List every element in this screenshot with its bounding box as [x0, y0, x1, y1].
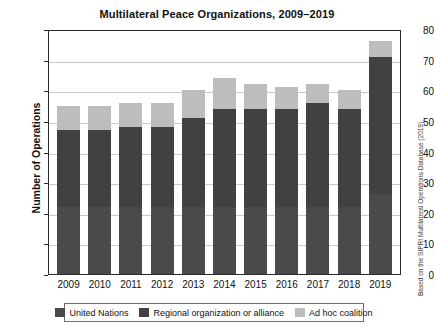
chart-title: Multilateral Peace Organizations, 2009–2… — [0, 8, 434, 20]
bar-segment[interactable] — [306, 103, 329, 207]
legend-label: United Nations — [69, 308, 128, 318]
bar-segment[interactable] — [244, 109, 267, 207]
y-axis-title: Number of Operations — [30, 43, 42, 273]
chart-container: Multilateral Peace Organizations, 2009–2… — [0, 0, 434, 334]
bar-segment[interactable] — [213, 109, 236, 207]
source-note: Based on the SIPRI Multilateral Operatio… — [417, 81, 424, 296]
bar-segment[interactable] — [57, 130, 80, 207]
bar-segment[interactable] — [182, 207, 205, 274]
bar-segment[interactable] — [151, 127, 174, 207]
y-axis-tick-mark — [44, 275, 48, 276]
bar-segment[interactable] — [338, 90, 361, 108]
bar-segment[interactable] — [306, 207, 329, 274]
bar-segment[interactable] — [369, 194, 392, 274]
bar-segment[interactable] — [88, 207, 111, 274]
legend-item[interactable]: Ad hoc coalition — [295, 308, 373, 318]
bar-column[interactable] — [57, 31, 80, 274]
plot-area — [48, 30, 401, 275]
bar-segment[interactable] — [88, 106, 111, 131]
bar-segment[interactable] — [213, 207, 236, 274]
legend-swatch-icon — [55, 308, 65, 317]
bar-segment[interactable] — [119, 103, 142, 128]
legend-label: Regional organization or alliance — [153, 308, 284, 318]
bar-column[interactable] — [244, 31, 267, 274]
bar-segment[interactable] — [338, 109, 361, 207]
legend-item[interactable]: Regional organization or alliance — [139, 308, 284, 318]
bar-group — [49, 31, 400, 274]
bar-segment[interactable] — [244, 84, 267, 109]
bar-column[interactable] — [88, 31, 111, 274]
legend-swatch-icon — [139, 308, 149, 317]
bar-segment[interactable] — [151, 207, 174, 274]
bar-segment[interactable] — [57, 207, 80, 274]
bar-segment[interactable] — [338, 207, 361, 274]
legend-label: Ad hoc coalition — [309, 308, 373, 318]
bar-segment[interactable] — [369, 57, 392, 195]
bar-segment[interactable] — [275, 109, 298, 207]
bar-segment[interactable] — [275, 207, 298, 274]
bar-column[interactable] — [369, 31, 392, 274]
bar-column[interactable] — [151, 31, 174, 274]
bar-segment[interactable] — [306, 84, 329, 102]
bar-segment[interactable] — [119, 127, 142, 207]
bar-segment[interactable] — [213, 78, 236, 109]
bar-segment[interactable] — [57, 106, 80, 131]
bar-segment[interactable] — [88, 130, 111, 207]
bar-column[interactable] — [182, 31, 205, 274]
bar-column[interactable] — [275, 31, 298, 274]
bar-column[interactable] — [213, 31, 236, 274]
bar-column[interactable] — [338, 31, 361, 274]
chart-legend: United NationsRegional organization or a… — [64, 303, 364, 322]
x-axis-tick-label: 2019 — [360, 279, 400, 290]
bar-segment[interactable] — [151, 103, 174, 128]
bar-column[interactable] — [119, 31, 142, 274]
bar-segment[interactable] — [275, 87, 298, 108]
bar-column[interactable] — [306, 31, 329, 274]
bar-segment[interactable] — [182, 118, 205, 207]
bar-segment[interactable] — [244, 207, 267, 274]
bar-segment[interactable] — [369, 41, 392, 56]
bar-segment[interactable] — [119, 207, 142, 274]
bar-segment[interactable] — [182, 90, 205, 118]
legend-item[interactable]: United Nations — [55, 308, 128, 318]
legend-swatch-icon — [295, 308, 305, 317]
